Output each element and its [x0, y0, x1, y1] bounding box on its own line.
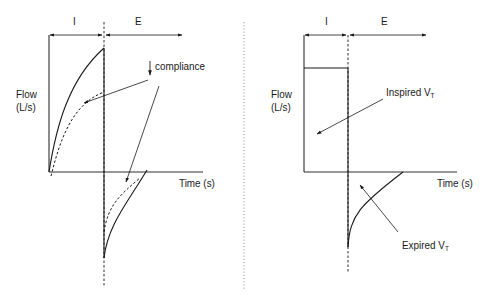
left-inspiration-curve-dashed	[51, 92, 104, 176]
right-inspiration-label: I	[325, 15, 328, 28]
inspired-vt-text: Inspired V	[386, 86, 431, 98]
flow-waveform-figure: I E Flow (L/s) Time (s) compliance I E F…	[0, 0, 487, 297]
left-y-axis-label-line2: (L/s)	[16, 101, 36, 114]
right-time-axis-label: Time (s)	[437, 177, 473, 190]
compliance-label: compliance	[155, 60, 205, 73]
inspired-vt-label: Inspired VT	[386, 86, 434, 102]
left-expiration-curve-dashed	[104, 178, 140, 232]
left-time-axis-label: Time (s)	[179, 177, 215, 190]
left-expiration-label: E	[135, 15, 142, 28]
compliance-pointer-expiration	[126, 86, 159, 182]
compliance-pointer-inspiration	[84, 80, 148, 103]
expired-vt-label: Expired VT	[402, 239, 449, 255]
expired-vt-subscript: T	[445, 244, 449, 253]
right-y-axis-label-line1: Flow	[271, 88, 292, 101]
right-expiration-label: E	[381, 15, 388, 28]
right-expiratory-curve	[348, 172, 403, 247]
expired-vt-pointer	[360, 185, 398, 232]
left-y-axis-label-line1: Flow	[16, 88, 37, 101]
inspired-vt-subscript: T	[431, 91, 435, 100]
left-expiration-curve-solid	[104, 170, 147, 258]
left-inspiration-label: I	[73, 15, 76, 28]
right-y-axis-label-line2: (L/s)	[271, 101, 291, 114]
inspired-vt-pointer	[317, 99, 383, 134]
expired-vt-text: Expired V	[402, 239, 445, 251]
right-panel-graph	[304, 35, 457, 272]
